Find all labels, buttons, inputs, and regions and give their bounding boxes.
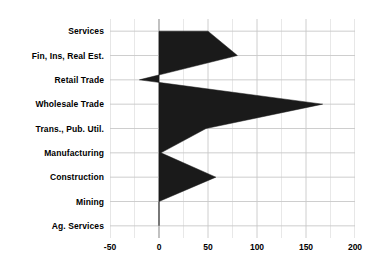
y-axis-tick-label: Manufacturing xyxy=(44,148,104,158)
plot-area xyxy=(110,19,355,238)
x-axis-tick-label: 100 xyxy=(250,242,264,252)
y-axis-tick-label: Mining xyxy=(76,197,104,207)
area-chart-svg xyxy=(110,19,355,238)
y-axis-tick-label: Construction xyxy=(50,172,104,182)
y-axis-tick-label: Ag. Services xyxy=(52,221,104,231)
y-axis-tick-label: Retail Trade xyxy=(55,75,104,85)
y-axis-tick-label: Trans., Pub. Util. xyxy=(36,124,104,134)
y-axis-tick-label: Fin, Ins, Real Est. xyxy=(32,51,104,61)
x-axis-tick-label: 0 xyxy=(157,242,162,252)
chart-container: ServicesFin, Ins, Real Est.Retail TradeW… xyxy=(0,0,374,271)
y-axis-labels: ServicesFin, Ins, Real Est.Retail TradeW… xyxy=(0,19,104,238)
x-axis-labels: -50050100150200 xyxy=(110,242,355,260)
y-axis-tick-label: Wholesale Trade xyxy=(35,99,104,109)
y-axis-tick-label: Services xyxy=(68,26,104,36)
x-axis-tick-label: 150 xyxy=(299,242,313,252)
x-axis-tick-label: 50 xyxy=(203,242,212,252)
x-axis-tick-label: -50 xyxy=(104,242,116,252)
x-axis-tick-label: 200 xyxy=(348,242,362,252)
